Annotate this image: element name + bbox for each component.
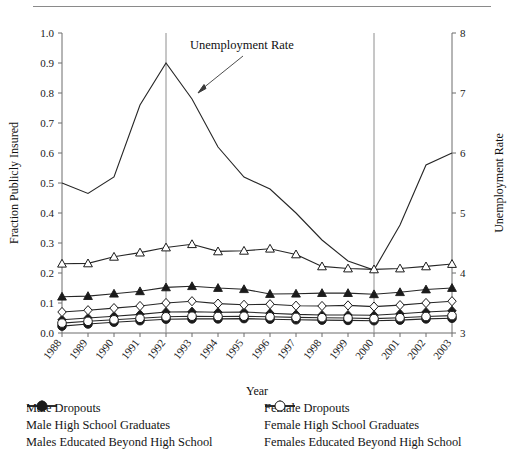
legend-item-male-dropouts: Male Dropouts [26,399,266,416]
y-axis-left-ticklabel: 0.1 [40,297,54,309]
diamond-open-marker [396,301,404,310]
legend-label: Male High School Graduates [26,418,170,432]
x-axis-ticklabel: 2001 [379,337,402,362]
x-axis-ticklabel: 1997 [275,336,298,361]
y-axis-right-ticklabel: 8 [460,27,466,39]
y-axis-left-ticklabel: 0.9 [40,57,54,69]
diamond-open-marker [292,301,300,310]
circle-open-marker [292,313,301,322]
legend-item-female-dropouts: Female Dropouts [264,399,516,416]
circle-open-marker [58,319,67,328]
diamond-open-marker [370,302,378,311]
y-axis-left-ticklabel: 0.3 [40,237,54,249]
circle-filled-icon [26,399,58,413]
y-axis-right-ticklabel: 6 [460,147,466,159]
triangle-open-marker [448,260,457,268]
y-axis-left-title: Fraction Publicly Insured [7,122,21,244]
legend-column-male: Male Dropouts Male High School Graduates… [26,399,266,450]
y-axis-left-ticklabel: 1.0 [40,27,54,39]
diamond-open-marker [344,301,352,310]
figure-container: 1.00.90.80.70.60.50.40.30.20.10.08765431… [0,0,524,462]
y-axis-left-ticklabel: 0.7 [40,117,54,129]
circle-open-marker [162,313,171,322]
x-axis-ticklabel: 1988 [41,336,64,361]
annotation-label: Unemployment Rate [190,38,294,52]
diamond-open-marker [266,300,274,309]
x-axis-ticklabel: 1990 [93,336,116,361]
x-axis-ticklabel: 1994 [197,336,220,361]
diamond-open-marker [110,304,118,313]
legend-item-male-hs-grads: Male High School Graduates [26,416,266,433]
diamond-open-marker [240,300,248,309]
circle-open-marker [422,312,431,321]
y-axis-left-ticklabel: 0.0 [40,327,54,339]
diamond-open-marker [214,299,222,308]
circle-open-marker [344,314,353,323]
triangle-filled-marker [188,282,197,290]
circle-open-marker [136,314,145,323]
y-axis-left-ticklabel: 0.8 [40,87,54,99]
y-axis-right-ticklabel: 4 [460,267,466,279]
y-axis-left-ticklabel: 0.6 [40,147,54,159]
series-line-female-dropouts [62,244,452,269]
x-axis-ticklabel: 1999 [327,336,350,361]
x-axis-ticklabel: 1991 [119,337,142,362]
circle-open-marker [240,312,249,321]
legend-item-females-beyond-hs: Females Educated Beyond High School [264,433,516,450]
y-axis-right-ticklabel: 3 [460,327,466,339]
y-axis-left-ticklabel: 0.5 [40,177,54,189]
y-axis-left-ticklabel: 0.4 [40,207,54,219]
circle-open-marker [396,313,405,322]
triangle-open-marker [318,262,327,270]
y-axis-right-ticklabel: 5 [460,207,466,219]
diamond-open-marker [58,307,66,316]
circle-open-marker [448,311,457,320]
x-axis-title: Year [246,384,268,398]
diamond-open-marker [448,297,456,306]
x-axis-ticklabel: 2000 [353,336,376,361]
x-axis-ticklabel: 1993 [171,336,194,361]
circle-open-marker [318,313,327,322]
diamond-open-marker [136,301,144,310]
x-axis-ticklabel: 2003 [431,336,454,361]
legend-item-males-beyond-hs: Males Educated Beyond High School [26,433,266,450]
diamond-open-marker [84,306,92,315]
diamond-open-marker [162,298,170,307]
legend-item-female-hs-grads: Female High School Graduates [264,416,516,433]
circle-open-marker [370,314,379,323]
legend-label: Females Educated Beyond High School [264,435,462,449]
diamond-open-marker [318,301,326,310]
x-axis-ticklabel: 1996 [249,336,272,361]
triangle-filled-marker [448,284,457,292]
circle-open-marker [214,312,223,321]
triangle-open-marker [266,244,275,252]
legend-column-female: Female Dropouts Female High School Gradu… [264,399,516,450]
x-axis-ticklabel: 1989 [67,336,90,361]
series-line-male-dropouts [62,286,452,297]
y-axis-right-ticklabel: 7 [460,87,466,99]
y-axis-left-ticklabel: 0.2 [40,267,54,279]
circle-open-marker [110,316,119,325]
triangle-open-marker [188,240,197,248]
legend-label: Female High School Graduates [264,418,419,432]
x-axis-ticklabel: 1995 [223,336,246,361]
chart-svg: 1.00.90.80.70.60.50.40.30.20.10.08765431… [0,0,524,400]
chart-legend: Male Dropouts Male High School Graduates… [26,399,516,455]
diamond-open-marker [188,297,196,306]
circle-open-marker [188,312,197,321]
circle-open-marker [84,317,93,326]
circle-open-marker [266,313,275,322]
x-axis-ticklabel: 1992 [145,337,168,362]
x-axis-ticklabel: 1998 [301,336,324,361]
diamond-open-marker [422,298,430,307]
annotation-arrowhead [198,85,206,94]
series-line-unemployment-rate [62,63,452,270]
y-axis-right-title: Unemployment Rate [492,133,506,233]
legend-label: Males Educated Beyond High School [26,435,213,449]
circle-open-icon [264,399,296,413]
series-line-female-high-school-graduates [62,301,452,312]
annotation-leader-line [202,56,243,89]
x-axis-ticklabel: 2002 [405,337,428,362]
